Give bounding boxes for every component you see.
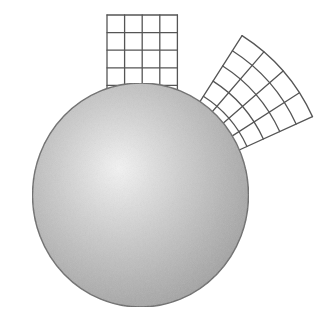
sphere-grid-diagram — [0, 0, 328, 329]
sphere — [33, 83, 249, 307]
